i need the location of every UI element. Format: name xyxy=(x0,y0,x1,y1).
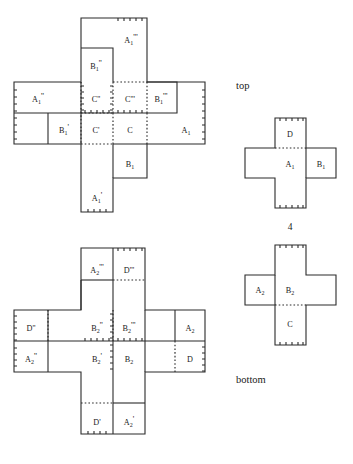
face-label-a1p: A1' xyxy=(92,191,103,204)
face-label-a2ppp: A2''' xyxy=(90,263,104,276)
face-label-b1ppp: B1''' xyxy=(155,92,168,105)
upper-left-edge-ticks xyxy=(14,18,205,212)
label-bottom: bottom xyxy=(236,374,266,385)
face-label-a2: A2 xyxy=(186,324,195,334)
paper-figure-unfolded-nets: A1''' B1'' A1'' C'' C''' B1''' B1' C' C … xyxy=(0,0,353,464)
face-label-a1pp: A1'' xyxy=(32,92,44,105)
face-label-cpp: C'' xyxy=(92,95,101,104)
face-label-c-bottom: C xyxy=(287,320,293,329)
lower-right-cross-group: A2 B2 C xyxy=(245,245,336,345)
upper-left-net-group: A1''' B1'' A1'' C'' C''' B1''' B1' C' C … xyxy=(14,18,205,212)
face-label-a2p: A2' xyxy=(124,415,135,428)
face-label-d-top: D xyxy=(287,130,293,139)
face-label-cppp: C''' xyxy=(125,95,135,104)
face-label-c: C xyxy=(127,126,133,135)
face-label-b2-bottom: B2 xyxy=(286,286,294,296)
face-label-b1pp: B1'' xyxy=(90,59,102,72)
face-label-d: D xyxy=(187,355,193,364)
face-label-b2p: B2' xyxy=(92,352,102,365)
face-label-a1-top: A1 xyxy=(286,160,295,170)
upper-left-net-outline xyxy=(14,18,205,212)
face-label-b1-top: B1 xyxy=(317,160,325,170)
face-label-cp: C' xyxy=(93,126,100,135)
face-label-dp: D' xyxy=(93,418,101,427)
upper-right-cross-group: D A1 B1 xyxy=(245,118,336,208)
lower-left-net-group: A2''' D''' D'' B2'' B2''' A2 A2'' B2' B2… xyxy=(14,248,205,434)
face-label-b1p: B1' xyxy=(59,123,69,136)
face-label-a2pp: A2'' xyxy=(25,352,37,365)
face-label-b2: B2 xyxy=(125,355,133,365)
label-count-4: 4 xyxy=(288,222,293,232)
face-label-b2pp: B2'' xyxy=(91,321,103,334)
label-top: top xyxy=(236,80,249,91)
face-label-a2-bottom: A2 xyxy=(256,286,265,296)
face-label-a1ppp: A1''' xyxy=(124,33,138,46)
face-label-dpp: D'' xyxy=(27,324,36,333)
face-label-a1: A1 xyxy=(182,126,191,136)
face-label-b1: B1 xyxy=(126,160,134,170)
face-label-b2ppp: B2''' xyxy=(123,321,136,334)
face-label-dppp: D''' xyxy=(124,266,135,275)
